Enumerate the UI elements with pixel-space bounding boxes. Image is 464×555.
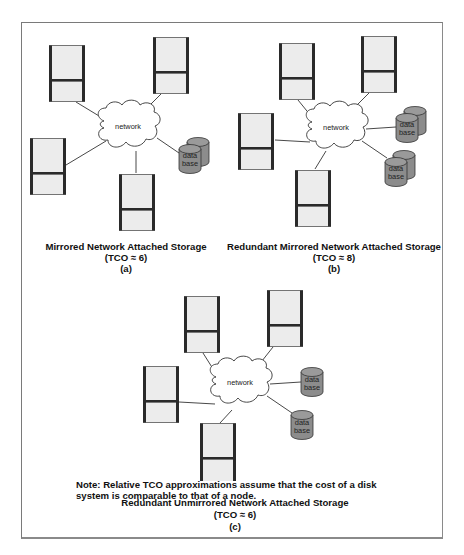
mirrored-database-icon: data base (396, 107, 426, 143)
node-server-icon (184, 296, 220, 353)
database-label: base (294, 426, 310, 435)
node-server-icon (153, 37, 189, 94)
node-server-icon (200, 423, 236, 481)
node-server-icon (119, 174, 155, 231)
network-label: network (227, 378, 253, 387)
mirrored-database-icon: data base (385, 151, 415, 187)
node-server-icon (238, 113, 274, 170)
storage-architecture-diagram: network data base Mirrored Network Attac… (0, 0, 464, 555)
mirrored-database-icon: data base (179, 138, 209, 174)
database-label: base (304, 383, 320, 392)
panel-c: network data base data base Note: Relati… (76, 290, 377, 532)
panel-label: (b) (328, 263, 340, 274)
panel-title: Redundant Unmirrored Network Attached St… (121, 497, 348, 508)
database-icon: data base (291, 411, 313, 440)
database-label: base (388, 172, 404, 181)
database-label: base (182, 159, 198, 168)
network-cloud-icon: network (98, 100, 160, 147)
network-label: network (115, 122, 141, 131)
node-server-icon (30, 138, 66, 195)
panel-tco: (TCO ≈ 8) (313, 252, 356, 263)
panel-title: Mirrored Network Attached Storage (45, 241, 206, 252)
database-label: base (399, 128, 415, 137)
note-text: Note: Relative TCO approximations assume… (76, 479, 377, 490)
node-server-icon (295, 170, 331, 227)
node-server-icon (267, 290, 303, 347)
network-cloud-icon: network (306, 101, 368, 148)
network-label: network (323, 123, 349, 132)
panel-b: network data base data base Redundant Mi… (227, 36, 441, 274)
panel-tco: (TCO ≈ 6) (214, 509, 257, 520)
database-icon: data base (301, 368, 323, 397)
network-cloud-icon: network (210, 356, 272, 403)
panel-label: (a) (120, 263, 132, 274)
panel-label: (c) (229, 521, 241, 532)
node-server-icon (49, 45, 85, 102)
panel-tco: (TCO ≈ 6) (105, 252, 148, 263)
panel-title: Redundant Mirrored Network Attached Stor… (227, 241, 441, 252)
node-server-icon (361, 36, 397, 93)
node-server-icon (143, 366, 179, 423)
panel-a: network data base Mirrored Network Attac… (30, 37, 209, 274)
node-server-icon (279, 43, 315, 100)
